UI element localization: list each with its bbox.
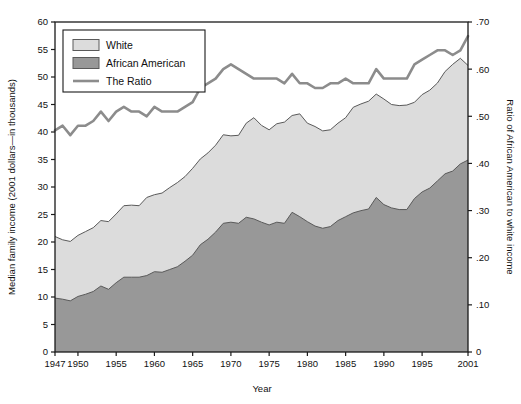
legend-label-2: African American — [106, 57, 186, 69]
y2-tick-label: .70 — [476, 16, 489, 27]
y-tick-label: 60 — [37, 16, 48, 27]
y2-tick-label: .40 — [476, 158, 489, 169]
y-tick-label: 0 — [43, 346, 48, 357]
y-tick-label: 5 — [43, 319, 48, 330]
x-tick-label: 2001 — [457, 358, 478, 369]
y-axis-title: Median family income (2001 dollars—in th… — [6, 79, 17, 295]
y-tick-label: 50 — [37, 71, 48, 82]
x-tick-label: 1970 — [220, 358, 241, 369]
income-ratio-area-chart: 051015202530354045505560 0.10.20.30.40.5… — [0, 0, 521, 404]
y2-tick-label: .50 — [476, 111, 489, 122]
x-tick-label: 1947 — [44, 358, 65, 369]
x-tick-label: 1975 — [259, 358, 280, 369]
x-tick-label: 1955 — [106, 358, 127, 369]
x-tick-label: 1990 — [373, 358, 394, 369]
legend-swatch-1 — [73, 40, 99, 51]
x-tick-label: 1985 — [335, 358, 356, 369]
y-tick-label: 25 — [37, 209, 48, 220]
y-tick-label: 40 — [37, 126, 48, 137]
y2-tick-label: .30 — [476, 205, 489, 216]
x-tick-label: 1950 — [67, 358, 88, 369]
y-tick-label: 20 — [37, 236, 48, 247]
y-tick-label: 45 — [37, 99, 48, 110]
y2-tick-label: .60 — [476, 64, 489, 75]
y2-axis-title: Ratio of African American to white incom… — [505, 99, 516, 274]
legend-label-1: White — [106, 39, 133, 51]
y2-tick-label: .10 — [476, 299, 489, 310]
y-tick-label: 30 — [37, 181, 48, 192]
y2-tick-label: .20 — [476, 252, 489, 263]
legend-swatch-2 — [73, 58, 99, 69]
y2-tick-label: 0 — [476, 346, 481, 357]
legend-label-3: The Ratio — [106, 75, 152, 87]
y-tick-label: 55 — [37, 44, 48, 55]
x-tick-label: 1965 — [182, 358, 203, 369]
x-axis-tick-labels: 1947195019551960196519701975198019851990… — [44, 358, 478, 369]
y-tick-label: 15 — [37, 264, 48, 275]
chart-container: 051015202530354045505560 0.10.20.30.40.5… — [0, 0, 521, 404]
y-tick-label: 35 — [37, 154, 48, 165]
y-tick-label: 10 — [37, 291, 48, 302]
x-tick-label: 1980 — [297, 358, 318, 369]
chart-legend: WhiteAfrican AmericanThe Ratio — [63, 30, 205, 92]
x-tick-label: 1960 — [144, 358, 165, 369]
x-tick-label: 1995 — [412, 358, 433, 369]
x-axis-title: Year — [252, 383, 271, 394]
